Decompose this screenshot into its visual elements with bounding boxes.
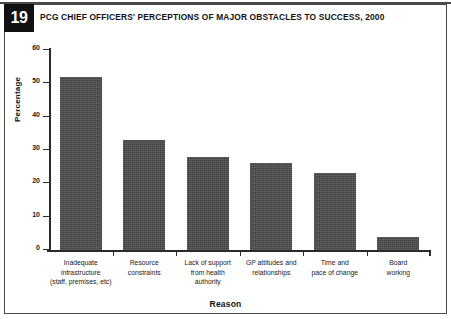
x-axis-tick <box>113 250 114 256</box>
y-axis-tick-label: 30 <box>32 144 40 151</box>
y-axis-tick-label: 60 <box>32 44 40 51</box>
bar[interactable] <box>250 163 292 250</box>
y-axis-tick-label: 10 <box>32 211 40 218</box>
x-axis-category-label: Board working <box>361 258 437 277</box>
x-axis-tick <box>176 250 177 256</box>
bar-slot <box>367 50 431 250</box>
bar-slot <box>176 50 240 250</box>
bar[interactable] <box>123 140 165 250</box>
y-axis-label: Percentage <box>13 77 22 122</box>
x-axis-end-tick <box>429 250 431 256</box>
bar[interactable] <box>60 77 102 250</box>
bar-slot <box>303 50 367 250</box>
x-axis-label: Reason <box>0 299 451 309</box>
x-axis-tick <box>303 250 304 256</box>
bar-slot <box>49 50 113 250</box>
y-axis-tick-label: 20 <box>32 177 40 184</box>
chart-title: PCG CHIEF OFFICERS' PERCEPTIONS OF MAJOR… <box>40 12 384 22</box>
figure-container: 19 PCG CHIEF OFFICERS' PERCEPTIONS OF MA… <box>0 0 451 319</box>
bar[interactable] <box>187 157 229 250</box>
plot-area: 0102030405060 <box>49 50 430 250</box>
bar-slot <box>113 50 177 250</box>
bar-slot <box>240 50 304 250</box>
y-axis-tick-label: 40 <box>32 111 40 118</box>
figure-number-badge: 19 <box>4 4 34 32</box>
y-axis-tick-label: 0 <box>36 244 40 251</box>
y-axis-tick-label: 50 <box>32 77 40 84</box>
x-axis-tick <box>240 250 241 256</box>
bar[interactable] <box>377 237 419 250</box>
bar[interactable] <box>314 173 356 250</box>
x-axis-tick <box>367 250 368 256</box>
